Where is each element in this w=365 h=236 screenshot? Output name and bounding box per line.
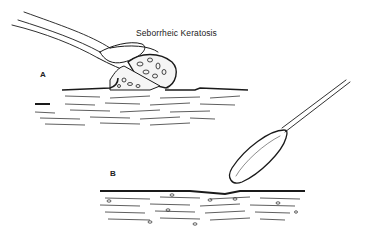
panel-b-skin (100, 191, 305, 225)
figure-title: Seborrheic Keratosis (136, 28, 217, 38)
panel-label-b: B (110, 169, 116, 178)
lesion-icon (110, 55, 176, 91)
panel-label-a: A (40, 70, 46, 79)
panel-b-curette-icon (230, 80, 350, 183)
